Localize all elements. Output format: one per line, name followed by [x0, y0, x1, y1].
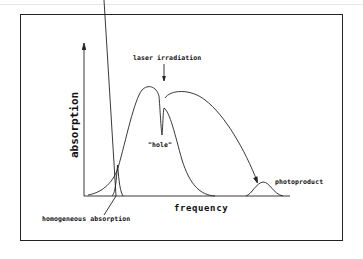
homogeneous-line-curve	[112, 165, 123, 196]
conversion-arrow-icon	[254, 177, 258, 184]
homogeneous-absorption-label: homogeneous absorption	[42, 215, 130, 223]
x-axis-label: frequency	[174, 203, 228, 213]
hole-label: "hole"	[148, 141, 172, 149]
photoproduct-label: photoproduct	[275, 178, 323, 186]
laser-irradiation-label: laser irradiation	[133, 54, 201, 62]
conversion-arrow-curve	[165, 92, 257, 182]
y-axis-label: absorption	[68, 92, 81, 158]
y-axis-arrow-icon	[82, 43, 85, 50]
homogeneous-pointer-line	[104, 0, 116, 196]
laser-arrow-icon	[163, 76, 166, 81]
